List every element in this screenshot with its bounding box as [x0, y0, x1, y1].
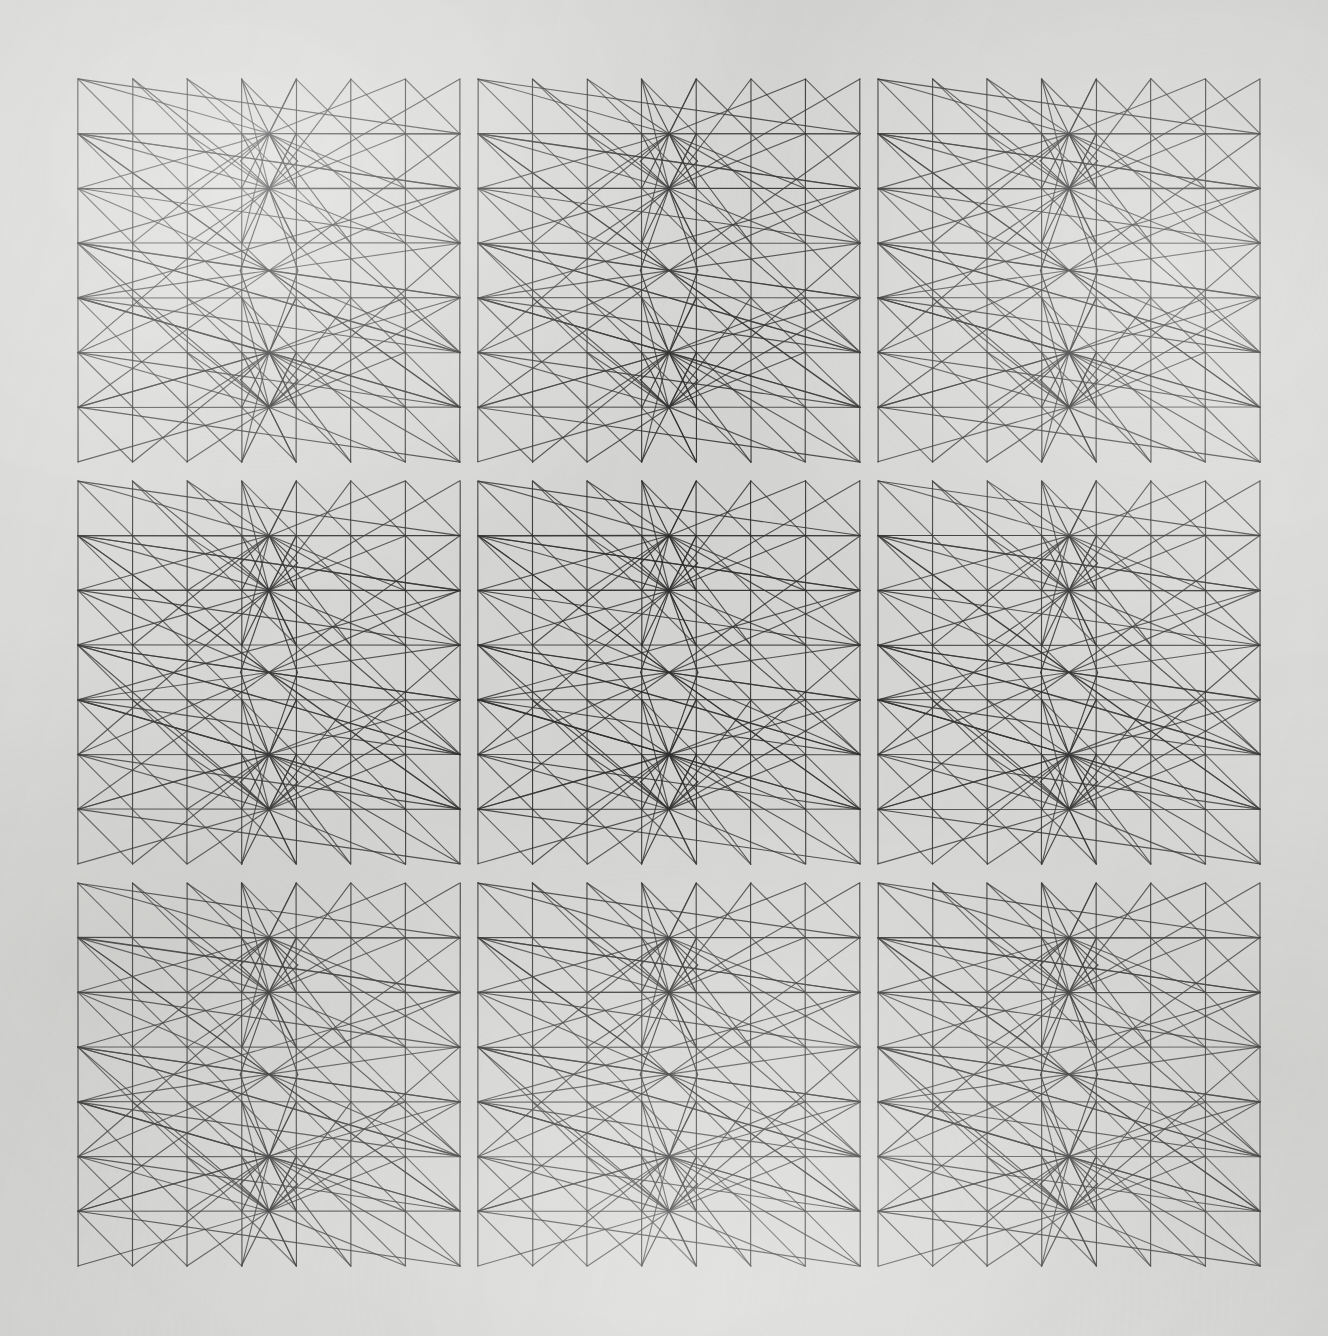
tile-r1c2: [478, 79, 861, 462]
artboard: [0, 0, 1328, 1336]
plotter-drawing-plate: [0, 0, 1328, 1336]
tile-r1c1: [78, 79, 461, 463]
tile-r2c1: [78, 481, 461, 865]
tile-r3c1: [78, 883, 461, 1266]
tile-r3c2: [478, 883, 861, 1267]
tile-r3c3: [878, 883, 1261, 1266]
tile-r2c2: [478, 481, 861, 865]
tile-r1c3: [878, 79, 1261, 462]
tile-r2c3: [878, 481, 1261, 864]
